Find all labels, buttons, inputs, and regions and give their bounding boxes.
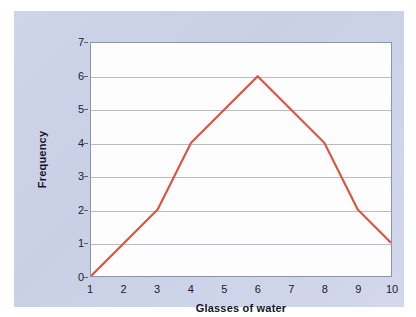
x-axis-ticks: 12345678910 bbox=[90, 283, 392, 299]
x-tick-label: 1 bbox=[73, 283, 107, 295]
y-tick-label: 2 bbox=[58, 204, 84, 215]
x-tick-label: 5 bbox=[207, 283, 241, 295]
y-tick-mark bbox=[84, 42, 88, 43]
y-axis-title: Frequency bbox=[36, 42, 52, 277]
plot-inner bbox=[91, 43, 391, 276]
y-tick-mark bbox=[84, 243, 88, 244]
plot-area bbox=[90, 42, 392, 277]
x-tick-label: 6 bbox=[241, 283, 275, 295]
figure-root: Frequency 01234567 12345678910 Glasses o… bbox=[0, 0, 416, 317]
x-axis-title: Glasses of water bbox=[90, 302, 392, 314]
y-tick-label: 5 bbox=[58, 104, 84, 115]
x-tick-label: 7 bbox=[274, 283, 308, 295]
chart-panel: Frequency 01234567 12345678910 Glasses o… bbox=[14, 11, 404, 307]
y-axis-ticks: 01234567 bbox=[54, 42, 84, 277]
y-tick-mark bbox=[84, 277, 88, 278]
y-tick-mark bbox=[84, 176, 88, 177]
x-tick-label: 8 bbox=[308, 283, 342, 295]
y-tick-mark bbox=[84, 143, 88, 144]
x-tick-label: 4 bbox=[174, 283, 208, 295]
x-tick-label: 2 bbox=[107, 283, 141, 295]
y-tick-label: 3 bbox=[58, 171, 84, 182]
y-tick-label: 1 bbox=[58, 238, 84, 249]
x-tick-label: 10 bbox=[375, 283, 409, 295]
y-tick-mark bbox=[84, 210, 88, 211]
x-tick-label: 3 bbox=[140, 283, 174, 295]
frequency-polygon-line bbox=[91, 43, 391, 276]
x-tick-label: 9 bbox=[341, 283, 375, 295]
y-tick-mark bbox=[84, 76, 88, 77]
y-tick-label: 0 bbox=[58, 272, 84, 283]
y-tick-mark bbox=[84, 109, 88, 110]
y-tick-label: 7 bbox=[58, 37, 84, 48]
y-tick-label: 6 bbox=[58, 70, 84, 81]
y-tick-label: 4 bbox=[58, 137, 84, 148]
